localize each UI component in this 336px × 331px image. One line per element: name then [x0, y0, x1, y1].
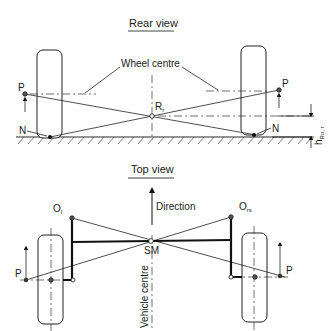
roll-centre-point — [150, 114, 154, 118]
right-contact-point — [252, 133, 256, 137]
right-force-point — [277, 88, 281, 92]
shear-centre-point — [149, 239, 154, 244]
roll-centre-label: Rr — [155, 101, 164, 113]
direction-label: Direction — [156, 201, 195, 212]
vehicle-centre-label: Vehicle centre — [139, 265, 150, 328]
left-wheel-centre-top — [49, 278, 53, 282]
right-force-point-label: P — [282, 78, 289, 89]
wheel-centre-leader-right — [182, 67, 218, 90]
right-wheel-centre-top — [253, 275, 257, 279]
right-pivot-label: Ors — [239, 201, 252, 213]
ground-hatching — [18, 137, 312, 144]
top-view: Top view Direction Vehicle centre Ol Ors… — [15, 163, 293, 331]
right-contact-point-label: N — [272, 123, 279, 134]
left-trailing-link — [63, 218, 72, 280]
right-pivot-point — [229, 215, 233, 219]
shear-centre-label: SM — [144, 245, 159, 256]
right-trailing-link — [231, 217, 242, 277]
left-pivot-point — [70, 216, 74, 220]
wheel-centre-label: Wheel centre — [121, 58, 180, 69]
left-force-point-label: P — [18, 82, 25, 93]
left-pivot-label: Ol — [53, 203, 62, 215]
top-view-title: Top view — [131, 163, 174, 175]
rear-view-title: Rear view — [129, 17, 178, 29]
left-force-point-top-label: P — [15, 268, 22, 279]
left-force-point-top — [24, 278, 28, 282]
suspension-diagram: Rear view Wheel centre — [0, 0, 336, 331]
right-rear-tire — [241, 46, 266, 135]
wheel-centre-leader-left — [85, 67, 120, 93]
roll-centre-height-label: hRo, r — [313, 126, 325, 145]
right-force-point-top-label: P — [286, 265, 293, 276]
right-force-point-top — [278, 274, 282, 278]
right-joint — [229, 275, 233, 279]
left-contact-point — [48, 135, 52, 139]
left-contact-point-label: N — [19, 125, 26, 136]
left-joint — [71, 278, 75, 282]
rear-view: Rear view Wheel centre — [16, 17, 325, 148]
